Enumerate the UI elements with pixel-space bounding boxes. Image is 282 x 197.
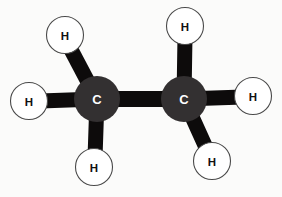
atom-carbon-right: C — [161, 76, 207, 122]
hydrogen-top-right-label: H — [181, 21, 189, 33]
atom-hydrogen-right: H — [235, 78, 272, 115]
hydrogen-right-label: H — [249, 91, 257, 103]
hydrogen-top-left-label: H — [61, 30, 69, 42]
carbon-right-label: C — [179, 92, 189, 107]
atom-hydrogen-top-right: H — [167, 8, 204, 45]
carbon-left-label: C — [92, 92, 102, 107]
atom-hydrogen-bottom-right: H — [194, 143, 231, 180]
hydrogen-bottom-left-label: H — [90, 162, 98, 174]
atom-hydrogen-left: H — [11, 83, 48, 120]
atom-hydrogen-top-left: H — [47, 17, 84, 54]
atom-hydrogen-bottom-left: H — [76, 149, 113, 186]
molecule-canvas: CCHHHHHH — [0, 0, 282, 197]
hydrogen-bottom-right-label: H — [208, 156, 216, 168]
atom-carbon-left: C — [74, 76, 120, 122]
molecule-diagram: CCHHHHHH — [0, 0, 282, 197]
hydrogen-left-label: H — [25, 96, 33, 108]
